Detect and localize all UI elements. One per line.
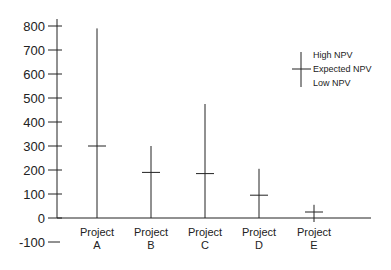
npv-range-project-b: ProjectB <box>134 146 168 251</box>
category-label: B <box>147 239 154 251</box>
y-tick-label: 700 <box>23 43 45 58</box>
legend-high-npv: High NPV <box>313 50 353 60</box>
y-tick-label: 400 <box>23 115 45 130</box>
category-label: Project <box>80 226 114 238</box>
y-tick-label: 0 <box>38 211 45 226</box>
y-tick-label: 200 <box>23 163 45 178</box>
y-tick-label: 600 <box>23 67 45 82</box>
category-label: Project <box>242 226 276 238</box>
category-label: Project <box>188 226 222 238</box>
npv-range-project-e: ProjectE <box>297 205 331 251</box>
npv-range-chart: 8007006005004003002001000-100 ProjectAPr… <box>0 0 391 270</box>
y-tick-label: -100 <box>19 235 45 250</box>
category-label: Project <box>297 226 331 238</box>
legend-low-npv: Low NPV <box>313 78 351 88</box>
category-label: E <box>310 239 317 251</box>
category-label: C <box>201 239 209 251</box>
y-tick-label: 300 <box>23 139 45 154</box>
category-label: A <box>93 239 101 251</box>
y-tick-label: 100 <box>23 187 45 202</box>
npv-range-project-c: ProjectC <box>188 104 222 251</box>
category-label: D <box>255 239 263 251</box>
npv-range-project-d: ProjectD <box>242 169 276 251</box>
legend: High NPV Expected NPV Low NPV <box>292 50 372 88</box>
y-tick-label: 800 <box>23 19 45 34</box>
y-tick-label: 500 <box>23 91 45 106</box>
legend-expected-npv: Expected NPV <box>313 64 372 74</box>
category-label: Project <box>134 226 168 238</box>
